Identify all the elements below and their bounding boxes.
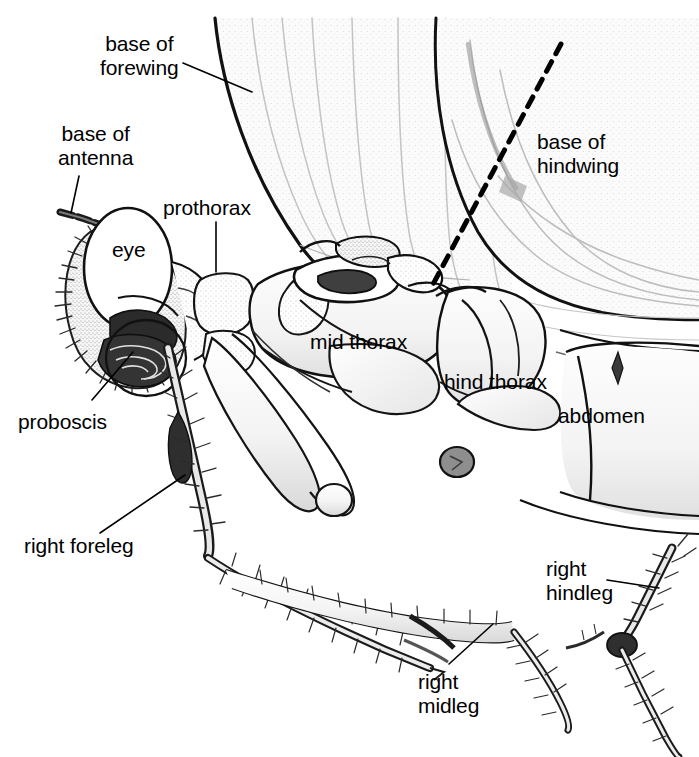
label-right-foreleg: right foreleg [24, 534, 134, 558]
label-mid-thorax: mid thorax [310, 330, 407, 354]
label-abdomen: abdomen [558, 404, 645, 428]
label-base-of-forewing: base offorewing [100, 32, 179, 79]
label-prothorax-line-1: prothorax [163, 196, 251, 220]
label-proboscis: proboscis [18, 410, 107, 434]
label-base-of-forewing-line-1: base of [100, 32, 179, 56]
label-abdomen-line-1: abdomen [558, 404, 645, 428]
label-prothorax: prothorax [163, 196, 251, 220]
label-right-hindleg-line-2: hindleg [546, 581, 613, 605]
label-base-of-antenna: base ofantenna [58, 122, 133, 169]
insect-illustration-canvas [0, 0, 699, 757]
label-mid-thorax-line-1: mid thorax [310, 330, 407, 354]
label-right-hindleg: righthindleg [546, 557, 613, 604]
leader-line-right-foreleg [100, 475, 185, 533]
label-right-midleg-line-2: midleg [418, 694, 479, 718]
label-base-of-hindwing-line-1: base of [537, 130, 619, 154]
label-hind-thorax: hind thorax [444, 370, 547, 394]
label-base-of-antenna-line-1: base of [58, 122, 133, 146]
label-right-midleg-line-1: right [418, 670, 479, 694]
label-eye: eye [112, 238, 146, 262]
leader-line-base-of-antenna [71, 176, 79, 213]
insect-anatomy-figure: base offorewingbase ofantennaprothoraxey… [0, 0, 699, 757]
eye-shape [84, 208, 172, 328]
label-eye-line-1: eye [112, 238, 146, 262]
label-right-hindleg-line-1: right [546, 557, 613, 581]
label-proboscis-line-1: proboscis [18, 410, 107, 434]
label-hind-thorax-line-1: hind thorax [444, 370, 547, 394]
label-base-of-hindwing-line-2: hindwing [537, 154, 619, 178]
label-base-of-antenna-line-2: antenna [58, 146, 133, 170]
label-base-of-forewing-line-2: forewing [100, 56, 179, 80]
label-base-of-hindwing: base ofhindwing [537, 130, 619, 177]
label-right-midleg: rightmidleg [418, 670, 479, 717]
label-right-foreleg-line-1: right foreleg [24, 534, 134, 558]
